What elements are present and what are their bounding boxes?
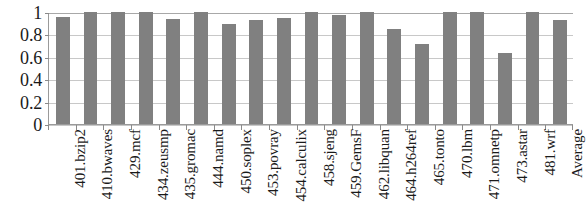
x-axis-tick-label: 453.povray [262, 129, 284, 217]
x-axis-tick-label: 454.calculix [290, 129, 312, 217]
x-axis-tick-label: 429.mcf [124, 129, 146, 217]
bar [56, 17, 70, 124]
x-axis-tick-label: 470.lbm [456, 129, 478, 217]
y-axis-tick-label: 0.4 [20, 71, 42, 89]
bar [443, 12, 457, 124]
x-axis-tick-label: 481.wrf [539, 129, 561, 217]
y-axis-tick-label: 0.8 [20, 26, 42, 44]
x-axis-tick-label: Average [566, 129, 588, 217]
bar [387, 29, 401, 124]
bars-layer [49, 13, 573, 124]
y-axis-tick-label: 0.6 [20, 49, 42, 67]
x-axis-tick-label: 473.astar [511, 129, 533, 217]
x-axis-tick-label: 435.gromac [179, 129, 201, 217]
bar [305, 12, 319, 124]
bar [139, 12, 153, 124]
plot-area [48, 13, 573, 125]
x-axis-tick-label: 410.bwaves [96, 129, 118, 217]
x-axis-tick-label: 444.namd [207, 129, 229, 217]
x-axis-tick-label: 462.libquan [373, 129, 395, 217]
x-axis-labels: 401.bzip2410.bwaves429.mcf434.zeusmp435.… [48, 131, 575, 219]
bar [277, 18, 291, 124]
x-axis-tick-label: 434.zeusmp [152, 129, 174, 217]
bar [166, 19, 180, 124]
x-axis-tick-label: 450.soplex [235, 129, 257, 217]
y-axis-tick-label: 1 [33, 4, 42, 22]
x-axis-tick-label: 471.omnetp [483, 129, 505, 217]
x-axis-tick-label: 465.tonto [428, 129, 450, 217]
x-axis-tick-label: 459.GemsF [345, 129, 367, 217]
y-axis-tick-label: 0.2 [20, 94, 42, 112]
bar [415, 44, 429, 124]
bar [553, 20, 567, 124]
bar [84, 12, 98, 124]
bar [470, 12, 484, 124]
bar [526, 12, 540, 124]
x-axis-tick-label: 458.sjeng [318, 129, 340, 217]
bar [498, 53, 512, 124]
x-axis-tick-mark [48, 125, 49, 130]
bar [332, 15, 346, 124]
y-axis-tick-label: 0 [33, 116, 42, 134]
y-axis-labels: 00.20.40.60.81 [0, 0, 46, 133]
x-axis-tick-label: 401.bzip2 [69, 129, 91, 217]
bar [111, 12, 125, 124]
bar [249, 20, 263, 124]
bar [222, 24, 236, 124]
x-axis-tick-label: 464.h264ref [400, 129, 422, 217]
bar [360, 12, 374, 124]
bar [194, 12, 208, 124]
